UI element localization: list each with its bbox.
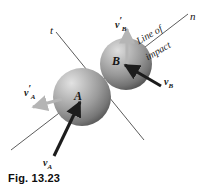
velocity-a-outgoing-sub: A [31,93,36,101]
velocity-a-outgoing-label: v′A [24,84,35,101]
velocity-b-incoming-sub: B [168,82,173,90]
figure-13-23: n t Line of impact A B vA vB v′A v′B Fig… [0,0,204,190]
axis-label-t: t [50,25,53,36]
velocity-a-incoming-sub: A [47,163,52,171]
axis-label-n: n [190,11,196,22]
velocity-b-outgoing-label: v′B [115,16,126,33]
figure-caption: Fig. 13.23 [8,172,60,184]
sphere-b-label: B [112,55,120,67]
sphere-a-label: A [74,90,82,102]
velocity-b-outgoing-sub: B [122,25,127,33]
velocity-a-incoming-label: vA [43,158,52,171]
velocity-b-incoming-label: vB [164,77,173,90]
